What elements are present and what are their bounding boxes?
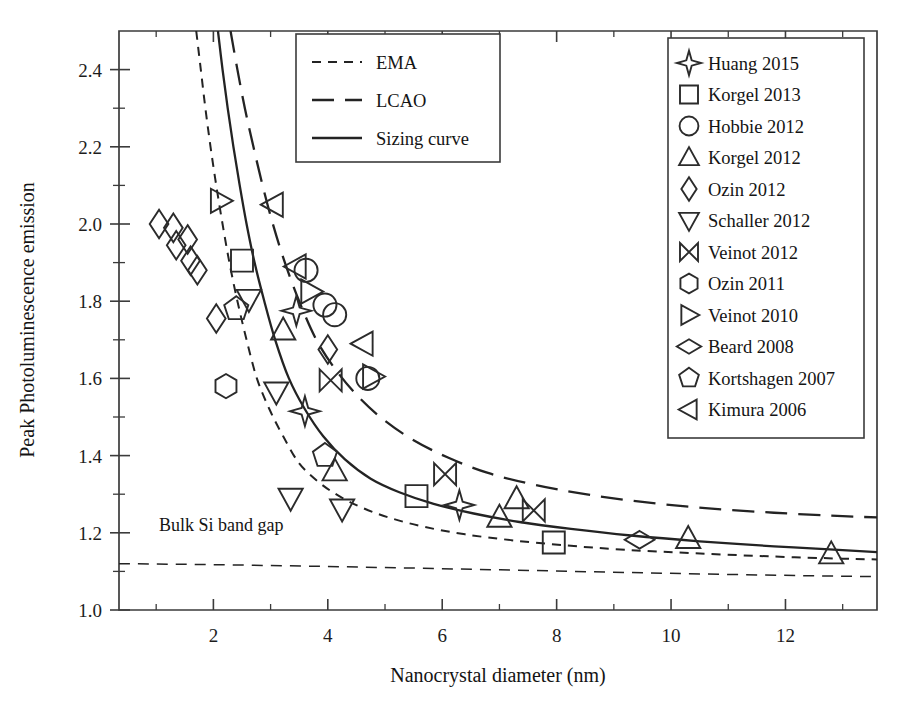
legend-label-hobbie-2012: Hobbie 2012 — [708, 117, 804, 137]
data-point-marker — [231, 250, 253, 272]
series-ozin-2011 — [216, 374, 237, 398]
series-hobbie-2012 — [295, 259, 380, 390]
legend-label-korgel-2012: Korgel 2012 — [708, 148, 801, 168]
data-point-marker — [523, 499, 545, 521]
x-tick-label: 2 — [209, 625, 219, 646]
legend-label-kortshagen-2007: Kortshagen 2007 — [708, 369, 835, 389]
legend-label-veinot-2010: Veinot 2010 — [708, 306, 798, 326]
bulk-si-band-gap-dashed-line — [119, 564, 877, 577]
y-tick-label: 1.8 — [78, 291, 102, 312]
data-point-marker — [320, 369, 342, 391]
data-point-marker — [445, 490, 475, 520]
y-tick-label: 2.4 — [78, 60, 102, 81]
data-point-marker — [264, 383, 288, 405]
legend-label-korgel-2013: Korgel 2013 — [708, 85, 801, 105]
figure-root: 246810121.01.21.41.61.82.02.22.4 Bulk Si… — [0, 0, 920, 702]
data-point-marker — [188, 256, 207, 285]
legend-label-lcao: LCAO — [376, 91, 426, 111]
data-point-marker — [216, 374, 237, 398]
x-tick-label: 6 — [437, 625, 447, 646]
x-axis-title: Nanocrystal diameter (nm) — [390, 664, 605, 687]
marker-legend: Huang 2015Korgel 2013Hobbie 2012Korgel 2… — [668, 38, 864, 438]
series-veinot-2010 — [211, 189, 385, 389]
x-tick-label: 10 — [662, 625, 681, 646]
curve-legend: EMALCAOSizing curve — [296, 34, 500, 162]
data-point-marker — [211, 189, 233, 213]
data-point-marker — [301, 279, 323, 303]
legend-label-ozin-2011: Ozin 2011 — [708, 274, 785, 294]
x-tick-label: 12 — [776, 625, 795, 646]
plot-annotations: Bulk Si band gap — [159, 515, 284, 535]
legend-label-kimura-2006: Kimura 2006 — [708, 400, 806, 420]
bulk-si-band-gap-line — [119, 564, 877, 577]
data-point-marker — [313, 294, 336, 317]
legend-label-veinot-2012: Veinot 2012 — [708, 243, 798, 263]
series-beard-2008 — [625, 531, 655, 549]
legend-label-ema: EMA — [376, 53, 418, 73]
data-point-marker — [434, 463, 456, 485]
legend-label-sizing-curve: Sizing curve — [376, 129, 469, 149]
y-tick-label: 2.2 — [78, 137, 102, 158]
data-point-marker — [261, 193, 283, 217]
bulk-si-band-gap-label: Bulk Si band gap — [159, 515, 284, 535]
x-tick-label: 4 — [323, 625, 333, 646]
y-tick-label: 1.0 — [78, 600, 102, 621]
legend-label-huang-2015: Huang 2015 — [708, 54, 799, 74]
legend-label-ozin-2012: Ozin 2012 — [708, 180, 786, 200]
series-ozin-2012 — [150, 210, 337, 364]
data-point-marker — [351, 332, 373, 356]
y-tick-label: 2.0 — [78, 214, 102, 235]
x-tick-label: 8 — [552, 625, 562, 646]
data-point-marker — [504, 486, 528, 508]
y-axis-title: Peak Photoluminescence emission — [16, 182, 38, 458]
y-tick-label: 1.6 — [78, 368, 102, 389]
legend-label-schaller-2012: Schaller 2012 — [708, 211, 810, 231]
data-point-marker — [237, 290, 261, 312]
nanocrystal-pl-chart: 246810121.01.21.41.61.82.02.22.4 Bulk Si… — [0, 0, 920, 702]
data-point-marker — [323, 303, 346, 326]
y-tick-label: 1.4 — [78, 446, 102, 467]
legend-label-beard-2008: Beard 2008 — [708, 337, 794, 357]
data-point-marker — [224, 296, 248, 319]
data-point-marker — [543, 531, 565, 553]
data-point-marker — [207, 304, 226, 333]
data-point-marker — [819, 541, 843, 563]
data-point-marker — [279, 489, 303, 511]
y-tick-label: 1.2 — [78, 523, 102, 544]
data-point-marker — [676, 526, 700, 548]
data-point-marker — [625, 531, 655, 549]
